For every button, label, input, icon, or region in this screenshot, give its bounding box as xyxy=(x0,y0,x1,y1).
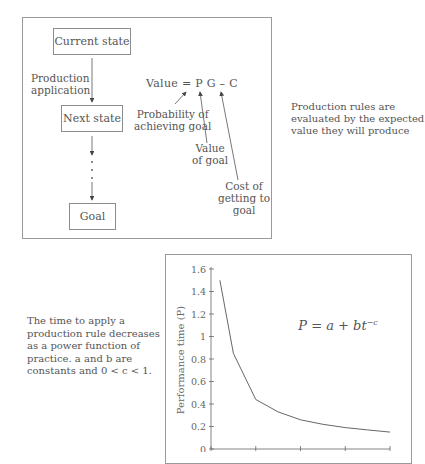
y-tick-label: 0 xyxy=(200,444,206,453)
y-tick-label: 0.2 xyxy=(191,421,206,432)
formula-exponent: −c xyxy=(367,318,378,327)
y-tick-label: 0.4 xyxy=(191,399,206,410)
y-tick-label: 0.6 xyxy=(191,376,206,387)
formula-label: P = a + bt−c xyxy=(290,303,378,333)
y-tick-label: 0.8 xyxy=(191,354,206,365)
y-tick-label: 1.2 xyxy=(191,309,206,320)
y-tick-label: 1.6 xyxy=(191,264,206,275)
y-axis-label: Performance time (P) xyxy=(175,306,186,414)
y-tick-label: 1.4 xyxy=(191,286,206,297)
y-tick-label: 1 xyxy=(200,331,206,342)
formula-main: P = a + bt xyxy=(298,318,366,333)
